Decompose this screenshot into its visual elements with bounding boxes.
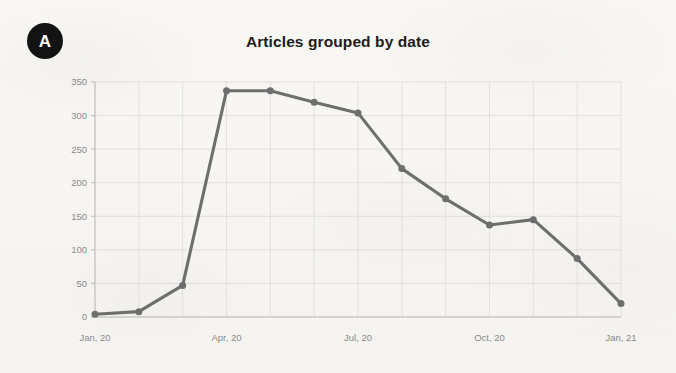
data-point-marker[interactable] [530, 216, 537, 223]
x-axis-tick-labels: Jan, 20Apr, 20Jul, 20Oct, 20Jan, 21 [79, 332, 636, 343]
y-axis-tick-label: 0 [82, 311, 87, 322]
y-axis-tick-label: 100 [71, 244, 87, 255]
data-point-marker[interactable] [179, 282, 186, 289]
data-point-marker[interactable] [618, 300, 625, 307]
x-axis-tick-label: Jul, 20 [344, 332, 372, 343]
data-point-marker[interactable] [574, 255, 581, 262]
y-axis-tick-label: 50 [76, 278, 87, 289]
data-point-marker[interactable] [398, 165, 405, 172]
chart-svg: 050100150200250300350 Jan, 20Apr, 20Jul,… [0, 0, 676, 373]
x-axis-tick-label: Jan, 20 [79, 332, 110, 343]
data-point-marker[interactable] [442, 195, 449, 202]
data-point-marker[interactable] [135, 308, 142, 315]
x-axis-tick-label: Apr, 20 [211, 332, 241, 343]
y-axis-tick-labels: 050100150200250300350 [71, 76, 95, 322]
line-chart: 050100150200250300350 Jan, 20Apr, 20Jul,… [0, 0, 676, 373]
data-point-marker[interactable] [486, 222, 493, 229]
data-point-marker[interactable] [355, 109, 362, 116]
y-axis-tick-label: 200 [71, 177, 87, 188]
x-axis-tick-label: Jan, 21 [605, 332, 636, 343]
y-axis-tick-label: 150 [71, 211, 87, 222]
x-axis-tick-label: Oct, 20 [474, 332, 505, 343]
y-axis-tick-label: 350 [71, 76, 87, 87]
y-axis-tick-label: 300 [71, 110, 87, 121]
y-axis-tick-label: 250 [71, 144, 87, 155]
data-point-marker[interactable] [92, 311, 99, 318]
data-point-marker[interactable] [223, 87, 230, 94]
data-point-marker[interactable] [311, 99, 318, 106]
vertical-gridlines [95, 82, 621, 317]
data-point-marker[interactable] [267, 87, 274, 94]
